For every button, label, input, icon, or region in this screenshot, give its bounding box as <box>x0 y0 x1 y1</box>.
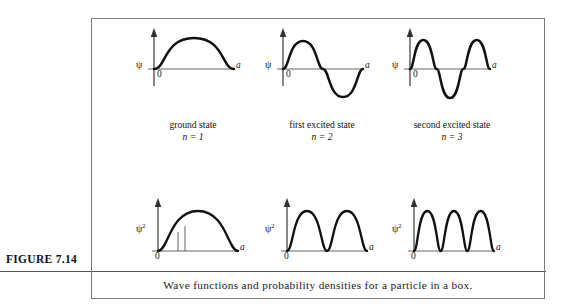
probability-density-n3-svg <box>408 198 500 260</box>
quantum-number-text-n1: n = 1 <box>183 131 204 142</box>
psi-squared-axis-label: ψ2 <box>392 222 402 234</box>
probability-density-curve-n3 <box>414 211 494 251</box>
state-caption-n1: ground state n = 1 <box>143 119 243 142</box>
state-quantum-number-n2: n = 2 <box>272 131 372 143</box>
box-width-label: a <box>492 60 497 70</box>
figure-caption-band: Wave functions and probability densities… <box>92 272 544 298</box>
plot-probability-density-n1: ψ2 0 a <box>152 198 244 260</box>
y-axis-arrowhead <box>151 28 158 37</box>
origin-label: 0 <box>284 251 289 261</box>
plot-wavefunction-n3: ψ 0 a <box>404 28 496 90</box>
y-axis-arrowhead <box>155 198 162 207</box>
box-width-label: a <box>236 60 241 70</box>
box-width-label: a <box>365 60 370 70</box>
probability-density-n1-svg <box>152 198 244 260</box>
wavefunction-n2-svg <box>277 28 369 90</box>
psi-axis-label: ψ <box>392 59 398 70</box>
probability-density-n2-svg <box>281 198 373 260</box>
quantum-number-text-n2: n = 2 <box>312 131 333 142</box>
state-name-n3: second excited state <box>399 119 505 131</box>
state-quantum-number-n3: n = 3 <box>399 131 505 143</box>
y-axis-arrowhead <box>411 198 418 207</box>
box-width-label: a <box>369 242 374 252</box>
y-axis-arrowhead <box>407 28 414 37</box>
state-caption-n2: first excited state n = 2 <box>272 119 372 142</box>
origin-label: 0 <box>411 251 416 261</box>
box-width-label: a <box>240 242 245 252</box>
psi-axis-label: ψ <box>136 59 142 70</box>
plot-probability-density-n3: ψ2 0 a <box>408 198 500 260</box>
wavefunction-n1-svg <box>148 28 240 90</box>
psi-exponent: 2 <box>271 222 274 229</box>
plot-probability-density-n2: ψ2 0 a <box>281 198 373 260</box>
state-name-n1: ground state <box>143 119 243 131</box>
probability-density-curve-n1 <box>158 211 238 251</box>
wavefunction-curve-n1 <box>154 38 234 69</box>
state-caption-n3: second excited state n = 3 <box>399 119 505 142</box>
plot-wavefunction-n2: ψ 0 a <box>277 28 369 90</box>
psi-squared-axis-label: ψ2 <box>265 222 275 234</box>
psi-axis-label: ψ <box>265 59 271 70</box>
origin-label: 0 <box>157 69 162 79</box>
psi-exponent: 2 <box>398 222 401 229</box>
origin-label: 0 <box>155 251 160 261</box>
y-axis-arrowhead <box>284 198 291 207</box>
box-width-label: a <box>496 242 501 252</box>
y-axis-arrowhead <box>280 28 287 37</box>
origin-label: 0 <box>286 69 291 79</box>
state-quantum-number-n1: n = 1 <box>143 131 243 143</box>
quantum-number-text-n3: n = 3 <box>442 131 463 142</box>
wavefunction-n3-svg <box>404 28 496 90</box>
figure-number-label: FIGURE 7.14 <box>6 253 77 265</box>
origin-label: 0 <box>413 69 418 79</box>
state-name-n2: first excited state <box>272 119 372 131</box>
plot-wavefunction-n1: ψ 0 a <box>148 28 240 90</box>
probability-density-curve-n2 <box>287 211 367 251</box>
figure-caption-text: Wave functions and probability densities… <box>163 279 473 291</box>
psi-exponent: 2 <box>142 222 145 229</box>
psi-squared-axis-label: ψ2 <box>136 222 146 234</box>
